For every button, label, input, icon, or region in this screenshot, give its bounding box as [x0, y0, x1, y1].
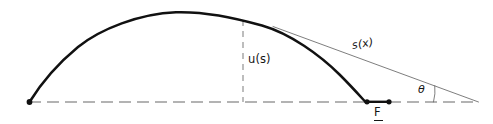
tangent-line-sx — [273, 27, 479, 103]
force-start-marker — [364, 99, 369, 104]
force-label-text: F — [374, 105, 381, 119]
force-label: F — [374, 107, 383, 121]
force-end-marker — [386, 99, 391, 104]
diagram-canvas — [0, 0, 493, 124]
theta-angle-arc — [434, 86, 436, 102]
height-label: u(s) — [248, 54, 271, 66]
trajectory-curve — [30, 12, 366, 102]
force-label-underline — [374, 120, 383, 121]
tangent-label: s(x) — [351, 37, 374, 51]
launch-point-marker — [27, 99, 33, 105]
projectile-diagram: u(s) s(x) θ F — [0, 0, 493, 124]
angle-label: θ — [418, 84, 425, 95]
